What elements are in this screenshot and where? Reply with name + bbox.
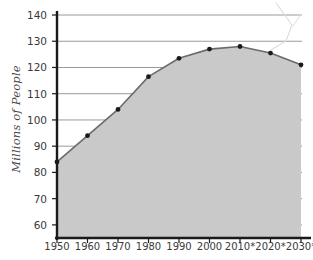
data-point-marker	[299, 62, 304, 67]
y-axis-tick-labels: 60708090100110120130140	[0, 0, 47, 260]
data-point-marker	[116, 107, 121, 112]
y-tick-label: 140	[27, 9, 47, 21]
y-tick-label: 80	[34, 166, 47, 178]
y-tick-label: 90	[34, 140, 47, 152]
x-tick-label: 1990	[166, 241, 191, 252]
y-tick-label: 100	[27, 114, 47, 126]
x-tick-label: 2020*	[255, 241, 285, 252]
x-tick-label: 2030*	[286, 241, 313, 252]
y-tick-label: 60	[34, 219, 47, 231]
population-area-chart: Millions of People 607080901001101201301…	[0, 0, 313, 260]
data-point-marker	[177, 56, 182, 61]
data-point-marker	[268, 51, 273, 56]
data-point-marker	[207, 47, 212, 52]
x-tick-label: 1980	[136, 241, 161, 252]
y-tick-label: 130	[27, 35, 47, 47]
x-tick-label: 1970	[105, 241, 130, 252]
y-tick-label: 110	[27, 88, 47, 100]
x-tick-label: 1950	[44, 241, 69, 252]
x-tick-label: 1960	[75, 241, 100, 252]
y-tick-label: 120	[27, 61, 47, 73]
y-tick-label: 70	[34, 193, 47, 205]
scan-artifact-scribble	[271, 3, 301, 50]
area-fill	[57, 46, 301, 238]
data-point-marker	[238, 44, 243, 49]
data-point-marker	[85, 133, 90, 138]
data-point-marker	[146, 74, 151, 79]
x-tick-label: 2000	[197, 241, 222, 252]
data-series-population	[55, 44, 304, 238]
x-tick-label: 2010*	[225, 241, 255, 252]
